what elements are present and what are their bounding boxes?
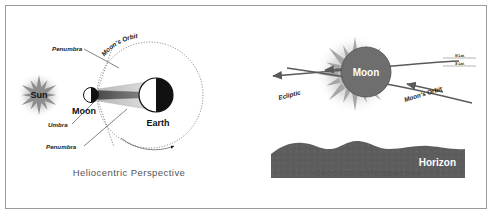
s-lat-label: S Lat. [455,62,465,66]
penumbra-upper-label: Penumbra [52,45,83,52]
sun-label: Sun [31,90,48,100]
panel-heliocentric: Sun Moon [6,6,252,210]
penumbra-edge-lower [98,101,114,147]
caption-geocentric: Geocentric Perspective [247,167,488,178]
moon-label: Moon [353,67,380,78]
orbit-direction-arrow [121,138,174,150]
figure-root: Sun Moon [0,0,492,214]
panel-geocentric: Moon N Lat. S Lat. Ecliptic Moon's Orbit… [247,6,488,210]
n-lat-label: N Lat. [455,54,465,58]
umbra-label: Umbra [48,121,68,128]
figure-border: Sun Moon [5,5,487,209]
caption-heliocentric: Heliocentric Perspective [6,167,252,178]
moon-label: Moon [72,106,96,116]
penumbra-lower-label: Penumbra [46,143,77,150]
earth-body [139,78,173,112]
moons-orbit-label: Moon's Orbit [100,32,139,57]
earth-label: Earth [146,118,169,128]
heliocentric-diagram: Sun Moon [6,6,252,210]
geocentric-diagram: Moon N Lat. S Lat. Ecliptic Moon's Orbit… [247,6,488,210]
moon-body [84,88,99,103]
ecliptic-label: Ecliptic [278,89,302,102]
